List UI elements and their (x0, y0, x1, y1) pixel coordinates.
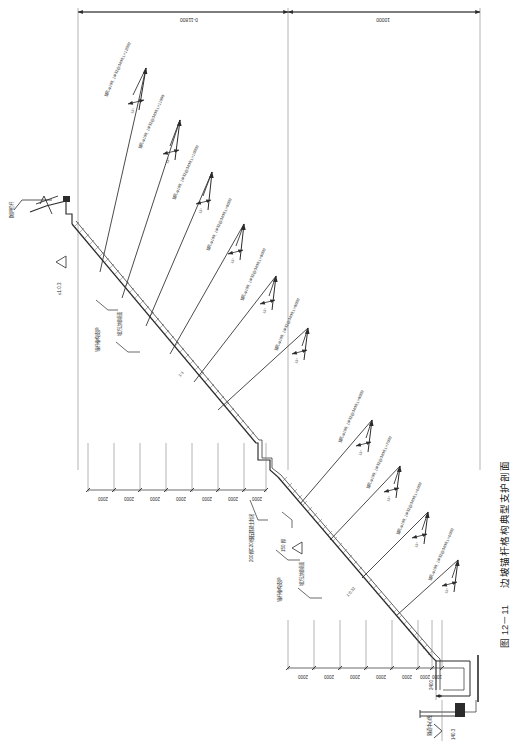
top-dimension-band (78, 8, 480, 470)
slope-hatching (75, 222, 432, 655)
thickness-150-label: 150 厚 (282, 539, 287, 552)
slope-ratio-marks (56, 256, 302, 554)
top-dimension-label-right: 10000 (376, 17, 390, 22)
shotcrete-lower-label: 坡方边坡喷面 (300, 562, 305, 586)
dim-lower-3: 2000 (350, 674, 360, 679)
lattice-support-lower-label: 锚杆格构支护 (278, 578, 283, 602)
slope-top-ratio-label: ≤1:0.3 (58, 283, 63, 295)
dim-lower-5: 2000 (402, 674, 412, 679)
dim-lower-1: 2000 (298, 674, 308, 679)
upper-dimension-chain (86, 443, 268, 492)
dim-upper-2: 2000 (124, 496, 134, 501)
dim-lower-4: 2000 (376, 674, 386, 679)
shotcrete-upper-label: 坡方边坡喷面 (118, 312, 123, 336)
guardrail-label: 防护栏杆 (10, 202, 15, 218)
dim-upper-7: 2000 (252, 496, 262, 501)
figure-number: 图 12－11 (500, 605, 510, 648)
drawing-svg (0, 0, 521, 741)
dim-upper-1: 2000 (98, 496, 108, 501)
guardrail-symbol (14, 196, 70, 214)
dim-upper-6: 2000 (228, 496, 238, 501)
lattice-support-upper-label: 锚杆格构支护 (96, 328, 101, 352)
dim-upper-5: 2000 (202, 496, 212, 501)
elevation-label: 140.3 (452, 729, 457, 740)
dim-lower-2: 2000 (324, 674, 334, 679)
dim-lower-6: 2000 (420, 674, 430, 679)
dim-lower-7: 1000 (432, 674, 442, 679)
concrete-seal-label: 200厚C20细石混凝土封闭 (250, 514, 255, 562)
dim-upper-4: 2000 (176, 496, 186, 501)
dim-2400-label: 2400 (430, 680, 435, 690)
tunnel-centerline-label: 隧道中心线 (428, 716, 433, 736)
leader-lines (96, 300, 476, 712)
dim-upper-3: 2000 (150, 496, 160, 501)
figure-caption: 边坡锚杆格构典型支护剖面 (500, 461, 510, 588)
figure-canvas: 0-11800 10000 锚孔φ100, 1Φ32@3400,L=12000 … (0, 0, 521, 741)
top-dimension-label-left: 0-11800 (180, 17, 198, 22)
lower-dimension-chain (286, 620, 444, 670)
slope-profile (30, 201, 440, 690)
